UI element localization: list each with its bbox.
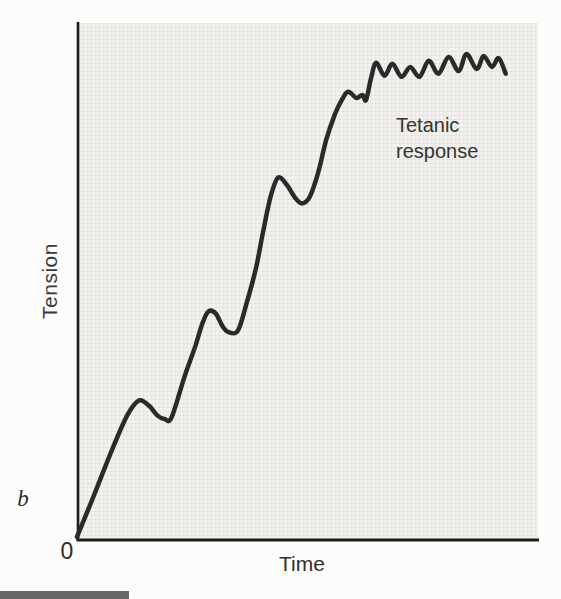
annotation-line-1: Tetanic	[396, 112, 478, 138]
x-axis-label: Time	[279, 552, 325, 576]
figure-panel-b: Tension Time 0 b Tetanic response	[0, 0, 561, 599]
origin-tick-label: 0	[61, 538, 74, 565]
figure-caption-bar	[0, 591, 129, 599]
y-axis-label: Tension	[38, 243, 62, 319]
chart-svg	[0, 0, 561, 599]
annotation-line-2: response	[396, 138, 478, 164]
panel-letter-label: b	[17, 486, 29, 512]
annotation-tetanic-response: Tetanic response	[396, 112, 478, 164]
